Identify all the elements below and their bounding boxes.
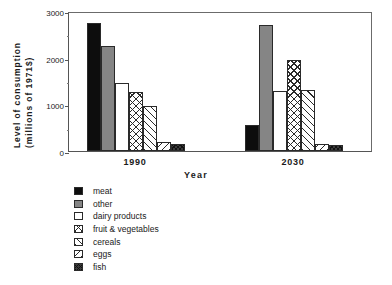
legend-item-label: meat xyxy=(93,186,112,196)
y-tick-major xyxy=(65,13,69,14)
bar-fish[interactable] xyxy=(329,145,343,151)
bar-eggs[interactable] xyxy=(315,144,329,151)
legend-item-fish[interactable]: fish xyxy=(74,261,159,274)
bar-fish[interactable] xyxy=(171,144,185,151)
legend-item-cereals[interactable]: cereals xyxy=(74,235,159,248)
bars-row xyxy=(87,13,185,151)
legend-item-label: cereals xyxy=(93,237,120,247)
plot-inner: 0100020003000 xyxy=(69,13,371,151)
legend-swatch-icon xyxy=(74,200,83,208)
y-tick-minor xyxy=(67,130,69,131)
y-tick-label: 2000 xyxy=(46,55,64,64)
legend-item-label: other xyxy=(93,199,112,209)
y-tick-major xyxy=(65,60,69,61)
y-tick-label: 1000 xyxy=(46,102,64,111)
chart-legend: meatotherdairy productsfruit & vegetable… xyxy=(74,185,159,273)
legend-swatch-icon xyxy=(74,187,83,195)
legend-item-fruit-vegetables[interactable]: fruit & vegetables xyxy=(74,223,159,236)
y-tick-major xyxy=(65,153,69,154)
y-tick-label: 3000 xyxy=(46,9,64,18)
bar-meat[interactable] xyxy=(245,125,259,151)
legend-item-eggs[interactable]: eggs xyxy=(74,248,159,261)
legend-swatch-icon xyxy=(74,263,83,271)
legend-item-meat[interactable]: meat xyxy=(74,185,159,198)
x-tick-label-2030: 2030 xyxy=(281,157,304,167)
legend-swatch-icon xyxy=(74,250,83,258)
x-tick-label-1990: 1990 xyxy=(123,157,146,167)
legend-item-label: dairy products xyxy=(93,211,146,221)
bar-other[interactable] xyxy=(259,25,273,151)
legend-swatch-icon xyxy=(74,238,83,246)
bar-meat[interactable] xyxy=(87,23,101,151)
y-axis-title: Level of consumption (millions of 1971$) xyxy=(0,0,36,160)
y-tick-label: 0 xyxy=(60,149,64,158)
bar-dairy-products[interactable] xyxy=(115,83,129,151)
plot-area: 0100020003000 xyxy=(68,12,372,152)
legend-item-label: fruit & vegetables xyxy=(93,224,159,234)
y-axis-title-line1: Level of consumption xyxy=(12,42,22,148)
y-tick-minor xyxy=(67,83,69,84)
bar-fruit-vegetables[interactable] xyxy=(129,92,143,151)
bar-cereals[interactable] xyxy=(143,106,157,151)
legend-item-label: eggs xyxy=(93,249,111,259)
legend-swatch-icon xyxy=(74,212,83,220)
bar-chart-figure: Level of consumption (millions of 1971$)… xyxy=(0,0,392,285)
bar-dairy-products[interactable] xyxy=(273,91,287,151)
y-axis-title-line2: (millions of 1971$) xyxy=(24,57,34,148)
legend-item-other[interactable]: other xyxy=(74,198,159,211)
y-tick-minor xyxy=(67,36,69,37)
y-tick-major xyxy=(65,106,69,107)
bar-cereals[interactable] xyxy=(301,90,315,151)
bar-eggs[interactable] xyxy=(157,142,171,151)
legend-item-dairy-products[interactable]: dairy products xyxy=(74,210,159,223)
bar-other[interactable] xyxy=(101,46,115,151)
x-axis-title: Year xyxy=(0,170,392,180)
bar-fruit-vegetables[interactable] xyxy=(287,60,301,151)
bars-row xyxy=(245,13,343,151)
legend-swatch-icon xyxy=(74,225,83,233)
legend-item-label: fish xyxy=(93,262,106,272)
